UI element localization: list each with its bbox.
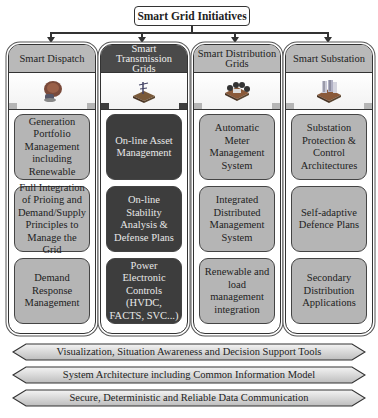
marker: [9, 103, 17, 109]
marker: [179, 103, 187, 109]
card-self-adaptive-defence: Self-adaptive Defence Plans: [291, 186, 367, 252]
arrow-icon: [324, 37, 332, 43]
column-smart-distribution-grids: Smart Distribution Grids Automatic Meter…: [193, 44, 281, 334]
substation-icon: [315, 78, 343, 104]
arrow-icon: [231, 37, 239, 43]
band-label: System Architecture including Common Inf…: [12, 366, 366, 384]
column-header: Smart Dispatch: [9, 45, 95, 73]
column-smart-substation: Smart Substation Substation Protection &…: [285, 44, 373, 334]
band-label: Secure, Deterministic and Reliable Data …: [12, 389, 366, 407]
card-automatic-meter-management: Automatic Meter Management System: [199, 114, 275, 180]
root-node-smart-grid-initiatives: Smart Grid Initiatives: [134, 6, 250, 26]
column-header: Smart Substation: [286, 45, 372, 73]
marker: [272, 103, 280, 109]
column-header: Smart Transmission Grids: [101, 45, 187, 73]
marker: [286, 103, 294, 109]
card-renewable-load-integration: Renewable and load management integratio…: [199, 258, 275, 324]
card-demand-response: Demand Response Management: [14, 258, 90, 324]
column-header: Smart Distribution Grids: [194, 45, 280, 73]
icon-band: [9, 73, 95, 110]
card-power-electronic-controls: Power Electronic Controls (HVDC, FACTS, …: [106, 258, 182, 324]
band-system-architecture: System Architecture including Common Inf…: [12, 366, 366, 384]
icon-band: [101, 73, 187, 110]
distribution-network-icon: [222, 79, 252, 103]
arrow-icon: [47, 37, 55, 43]
card-secondary-distribution: Secondary Distribution Applications: [291, 258, 367, 324]
band-label: Visualization, Situation Awareness and D…: [12, 343, 366, 361]
band-data-communication: Secure, Deterministic and Reliable Data …: [12, 389, 366, 407]
icon-band: [194, 73, 280, 110]
band-visualization: Visualization, Situation Awareness and D…: [12, 343, 366, 361]
generator-icon: [39, 78, 65, 104]
connector-horizontal: [50, 32, 329, 34]
marker: [87, 103, 95, 109]
arrow-icon: [138, 37, 146, 43]
card-generation-portfolio: Generation Portfolio Management includin…: [14, 114, 90, 180]
marker: [194, 103, 202, 109]
icon-band: [286, 73, 372, 110]
marker: [364, 103, 372, 109]
transmission-tower-icon: [130, 79, 158, 103]
card-pricing-integration: Full Integration of Prioing and Demand/S…: [14, 186, 90, 252]
marker: [101, 103, 109, 109]
column-smart-dispatch: Smart Dispatch Generation Portfolio Mana…: [8, 44, 96, 334]
card-online-asset-management: On-line Asset Management: [106, 114, 182, 180]
card-substation-protection: Substation Protection & Control Architec…: [291, 114, 367, 180]
card-online-stability-analysis: On-line Stability Analysis & Defense Pla…: [106, 186, 182, 252]
column-smart-transmission-grids: Smart Transmission Grids On-line Asset M…: [100, 44, 188, 334]
card-integrated-distributed-management: Integrated Distributed Management System: [199, 186, 275, 252]
